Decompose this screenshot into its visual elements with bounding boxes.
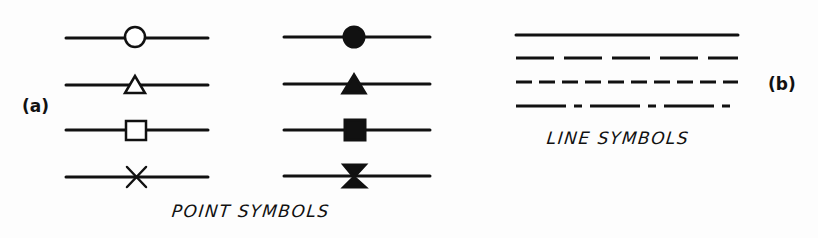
cross-symbol [66,167,208,187]
open-triangle-symbol [66,76,208,93]
symbols-drawing [0,0,818,238]
open-circle-symbol [66,27,208,47]
open-square-symbol [66,121,208,140]
filled-triangle-symbol [284,75,430,93]
symbols-figure: (a) POINT SYMBOLS (b) LINE SYMBOLS [0,0,818,238]
filled-hourglass-symbol [284,165,430,187]
line-symbols-caption: LINE SYMBOLS [546,128,691,148]
panel-a-label: (a) [22,96,49,116]
point-symbols-caption: POINT SYMBOLS [171,201,331,221]
panel-b-label: (b) [768,74,796,94]
filled-circle-symbol [284,27,430,47]
filled-square-symbol [284,120,430,140]
